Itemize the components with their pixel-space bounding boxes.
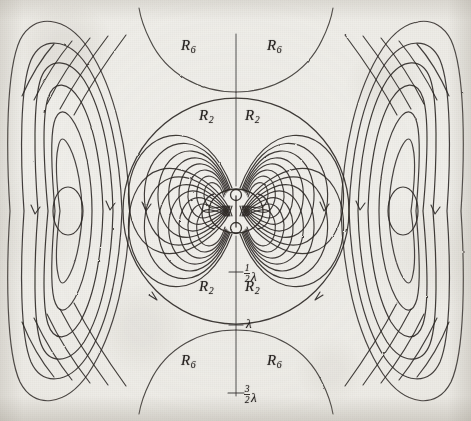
field-line-drawing <box>0 0 471 421</box>
left-outer-lobe-loops <box>8 21 130 400</box>
region-label-r6-bottom-right: R6 <box>267 352 282 370</box>
axis-label-three-halves-lambda: 32λ <box>244 384 257 406</box>
fraction-three-halves: 32 <box>244 384 250 404</box>
region-label-r2-upper-right: R2 <box>245 107 260 125</box>
region-label-r2-lower-left: R2 <box>199 278 214 296</box>
axis-label-half-lambda: 12λ <box>244 263 257 285</box>
region-label-r6-top-left: R6 <box>181 37 196 55</box>
arrowhead-left-inner <box>106 201 115 210</box>
region-label-r6-top-right: R6 <box>267 37 282 55</box>
right-outer-lobe-loops <box>341 21 463 400</box>
arrowhead-left-outer <box>31 205 40 214</box>
figure-root: R6 R6 R2 R2 R2 R2 R6 R6 12λ λ <box>0 0 471 421</box>
arrowhead-right-outer <box>431 205 440 214</box>
region-label-r6-bottom-left: R6 <box>181 352 196 370</box>
arrowhead-circle-lower-right <box>315 292 323 300</box>
arrowhead-circle-lower-left <box>149 292 157 300</box>
fraction-one-half: 12 <box>244 263 250 283</box>
axis-label-lambda: λ <box>246 316 252 332</box>
region-label-r2-upper-left: R2 <box>199 107 214 125</box>
arrowhead-right-inner <box>356 201 365 210</box>
